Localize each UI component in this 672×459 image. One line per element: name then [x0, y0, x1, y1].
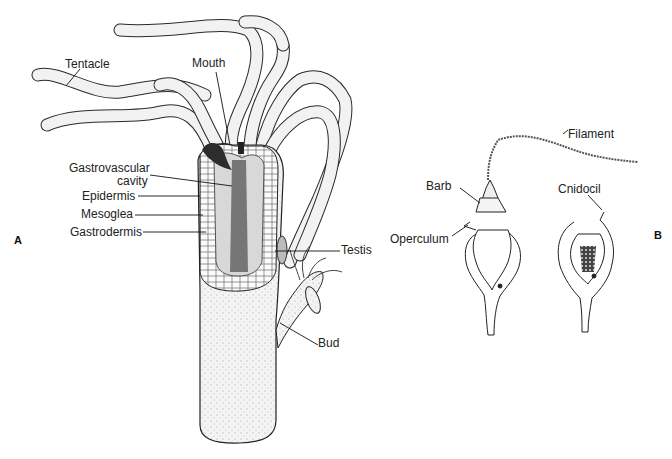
label-operculum: Operculum [390, 233, 449, 246]
label-epidermis: Epidermis [82, 190, 135, 203]
label-cavity: cavity [117, 175, 148, 188]
testis [277, 236, 287, 264]
label-tentacle: Tentacle [65, 58, 110, 71]
label-gastrodermis: Gastrodermis [70, 226, 142, 239]
label-barb: Barb [426, 180, 451, 193]
hydra-body [198, 142, 283, 443]
nematocyst-discharged [464, 136, 638, 335]
panel-label-b: B [654, 229, 662, 241]
label-testis: Testis [341, 244, 372, 257]
panel-label-a: A [14, 234, 22, 246]
nematocyst-undischarged [558, 212, 613, 332]
label-bud: Bud [318, 337, 339, 350]
label-cnidocil: Cnidocil [558, 183, 601, 196]
label-mesoglea: Mesoglea [81, 208, 133, 221]
label-mouth: Mouth [192, 57, 225, 70]
label-filament: Filament [568, 128, 614, 141]
hydra-figure: Tentacle Mouth Gastrovascular cavity Epi… [0, 0, 672, 459]
